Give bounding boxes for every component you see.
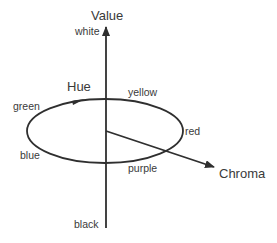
red-label: red	[185, 125, 200, 137]
yellow-label: yellow	[128, 86, 158, 98]
value-axis-label: Value	[91, 8, 123, 23]
chroma-axis-label: Chroma	[219, 166, 266, 181]
hue-circle	[27, 99, 183, 163]
munsell-diagram: Value white black Hue green yellow red p…	[0, 0, 277, 243]
purple-label: purple	[128, 162, 157, 174]
black-label: black	[74, 218, 99, 230]
blue-label: blue	[20, 149, 40, 161]
white-label: white	[74, 25, 100, 37]
green-label: green	[13, 100, 40, 112]
hue-axis-label: Hue	[67, 79, 91, 94]
